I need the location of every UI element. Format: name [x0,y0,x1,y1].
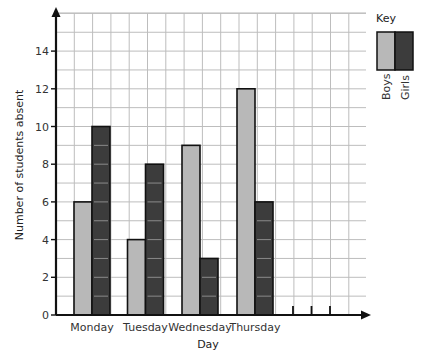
x-tick-label-wednesday: Wednesday [168,321,232,334]
legend-swatch-girls [395,32,413,70]
bar-chart: 02468101214 MondayTuesdayWednesdayThursd… [0,0,422,362]
x-tick-labels: MondayTuesdayWednesdayThursday [70,321,281,334]
bar-boys-wednesday [182,145,200,315]
bar-boys-monday [74,202,92,315]
legend-label-girls: Girls [399,75,412,100]
y-tick-label: 8 [42,158,49,171]
x-axis-title: Day [197,338,219,351]
y-tick-label: 12 [35,83,49,96]
x-tick-label-thursday: Thursday [228,321,281,334]
y-ticks: 02468101214 [35,45,56,322]
y-tick-label: 4 [42,234,49,247]
legend: Key Boys Girls [376,12,413,100]
y-tick-label: 10 [35,121,49,134]
empty-x-ticks [293,306,330,315]
bar-boys-thursday [237,89,255,315]
legend-swatch-boys [377,32,395,70]
legend-label-boys: Boys [380,73,393,100]
y-tick-label: 6 [42,196,49,209]
y-tick-label: 0 [42,309,49,322]
y-axis-arrow-icon [52,7,61,17]
bar-girls-wednesday [200,258,218,315]
y-tick-label: 14 [35,45,49,58]
y-axis-title: Number of students absent [13,89,26,240]
y-tick-label: 2 [42,271,49,284]
x-tick-label-tuesday: Tuesday [122,321,168,334]
bar-boys-tuesday [128,240,146,315]
legend-title: Key [376,12,396,25]
x-tick-label-monday: Monday [70,321,114,334]
x-axis-arrow-icon [361,311,371,320]
